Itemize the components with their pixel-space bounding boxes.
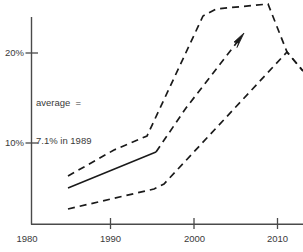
y-tick-label-20: 20% (0, 47, 24, 58)
series-lower-bound (68, 52, 303, 209)
x-tick-label-1990: 1990 (93, 233, 128, 244)
series-upper-bound (68, 4, 303, 176)
average-annotation: average = 7.1% in 1989 (36, 72, 91, 172)
series-average-trend-dashed (156, 41, 238, 152)
x-tick-label-1980: 1980 (10, 233, 44, 244)
chart-container: 20% 10% 1980 1990 2000 2010 average = 7.… (0, 0, 303, 252)
x-tick-label-2010: 2010 (260, 233, 295, 244)
average-annotation-line2: 7.1% in 1989 (36, 135, 91, 148)
x-tick-label-2000: 2000 (177, 233, 212, 244)
y-tick-label-10: 10% (0, 137, 24, 148)
average-annotation-line1: average = (36, 97, 91, 110)
